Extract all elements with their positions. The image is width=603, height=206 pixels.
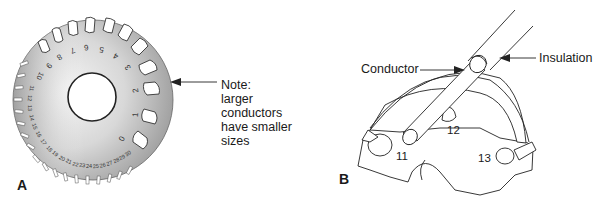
svg-text:14: 14 xyxy=(28,114,35,121)
note-text: Note: larger conductors have smaller siz… xyxy=(221,78,311,148)
hole-number-11: 11 xyxy=(396,150,408,162)
panel-a-wire-gauge: 0 1 2 3 4 5 6 7 8 9 10 11 12 13 14 15 16… xyxy=(0,0,300,206)
svg-text:13: 13 xyxy=(27,105,33,111)
insulation-label: Insulation xyxy=(539,51,593,66)
svg-text:11: 11 xyxy=(29,85,36,92)
svg-text:25: 25 xyxy=(92,163,99,170)
note-line-4: sizes xyxy=(221,134,311,148)
note-line-1: Note: xyxy=(221,78,311,92)
panel-letter-b: B xyxy=(339,171,349,187)
svg-text:12: 12 xyxy=(27,95,34,102)
svg-text:24: 24 xyxy=(86,163,92,169)
panel-b-gauge-cross-section: Conductor Insulation 11 12 13 B xyxy=(300,0,603,206)
conductor-label: Conductor xyxy=(361,62,419,77)
svg-text:23: 23 xyxy=(79,162,86,169)
note-line-2: larger conductors xyxy=(221,92,311,120)
note-line-3: have smaller xyxy=(221,120,311,134)
hole-number-13: 13 xyxy=(478,152,491,164)
panel-letter-a: A xyxy=(17,177,27,193)
hole-number-12: 12 xyxy=(447,124,460,136)
